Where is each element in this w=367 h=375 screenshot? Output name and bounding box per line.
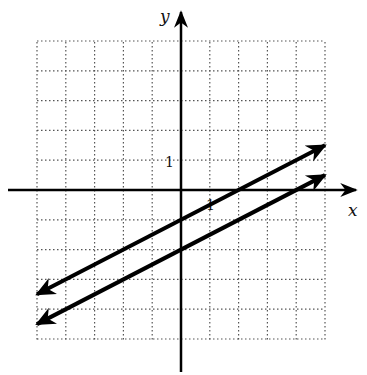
axes <box>8 12 356 372</box>
y-axis-label: y <box>159 6 170 26</box>
coordinate-plane: x y 1 1 <box>0 0 367 375</box>
x-axis-label: x <box>348 200 358 220</box>
y-tick-label: 1 <box>165 154 174 170</box>
